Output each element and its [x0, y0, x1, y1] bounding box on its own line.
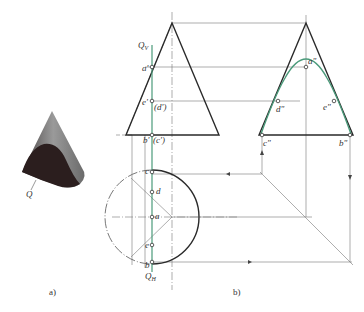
plane-label-qv: QV: [138, 40, 150, 51]
caption-a: a): [49, 287, 56, 297]
point-label-b-prime: b': [143, 135, 151, 145]
point-label-c-prime: (c'): [153, 135, 165, 145]
direction-arrows: [226, 150, 352, 264]
point-label-a-prime: a': [142, 63, 150, 73]
point-label-b: b: [145, 260, 150, 270]
point-label-a-dprime: a": [308, 56, 317, 66]
point-label-a: a: [155, 211, 160, 221]
solid-illustration: Q a): [22, 111, 85, 297]
caption-b: b): [233, 287, 241, 297]
projection-points: [150, 65, 352, 264]
projection-panel: QV a' e' (d') b' (c') a" d" e" c" b" c d…: [105, 12, 353, 297]
point-label-c-dprime: c": [263, 138, 271, 148]
point-label-d: d: [156, 186, 161, 196]
plane-label-q: Q: [26, 189, 33, 199]
orthographic-projection-drawing: Q a): [0, 0, 364, 312]
point-label-c: c: [145, 166, 149, 176]
point-label-d-prime: (d'): [154, 102, 166, 112]
point-label-d-dprime: d": [276, 104, 285, 114]
point-label-e: e: [145, 240, 149, 250]
point-label-e-dprime: e": [323, 102, 331, 112]
point-label-b-dprime: b": [339, 138, 348, 148]
plane-label-qh: QH: [145, 271, 157, 282]
point-label-e-prime: e': [142, 97, 149, 107]
